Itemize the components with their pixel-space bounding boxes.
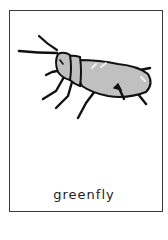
card-caption: greenfly xyxy=(0,187,168,202)
abdomen xyxy=(78,60,151,97)
head xyxy=(56,53,71,80)
antennae xyxy=(19,36,57,53)
